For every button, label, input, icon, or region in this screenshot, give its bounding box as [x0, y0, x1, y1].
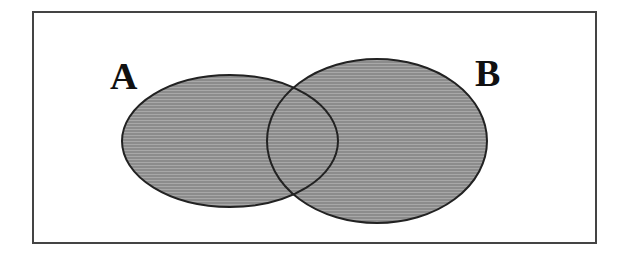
- set-a-label: A: [110, 55, 138, 97]
- set-b-label: B: [475, 52, 500, 94]
- venn-diagram: A B: [0, 0, 627, 266]
